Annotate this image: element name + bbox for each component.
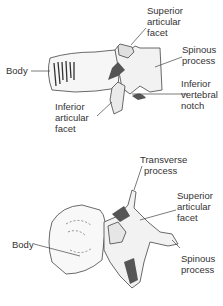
- label-superior-articular-facet-superior: Superior articular facet: [177, 190, 213, 223]
- label-inferior-vertebral-notch: Inferior vertebral notch: [181, 78, 218, 111]
- label-spinous-process-lateral: Spinous process: [182, 44, 216, 66]
- label-body-superior: Body: [12, 239, 34, 250]
- label-spinous-process-superior: Spinous process: [181, 253, 215, 275]
- label-transverse-process: Transverse process: [140, 154, 187, 176]
- label-superior-articular-facet-lateral: Superior articular facet: [147, 5, 183, 38]
- label-body-lateral: Body: [6, 65, 28, 76]
- superior-vertebra-drawing: [49, 190, 178, 288]
- label-inferior-articular-facet: Inferior articular facet: [55, 101, 89, 134]
